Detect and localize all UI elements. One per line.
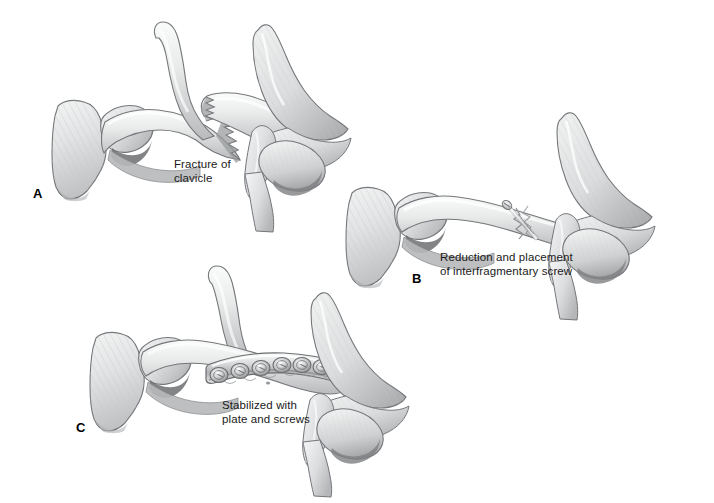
panel-letter-b: B	[412, 271, 421, 286]
clavicle-fracture-figure	[0, 0, 714, 503]
plate-shadow-speck	[266, 381, 270, 384]
plate-screw-5	[293, 358, 311, 373]
panel-a-caption: Fracture of clavicle	[174, 157, 231, 185]
panel-c-caption: Stabilized with plate and screws	[222, 398, 310, 426]
panel-b-caption: Reduction and placement of interfragment…	[440, 250, 573, 278]
plate-screw-2	[231, 364, 249, 379]
plate-screw-4	[273, 358, 291, 373]
plate-screw-3	[252, 361, 270, 376]
plate-screw-1	[210, 368, 228, 383]
panel-letter-a: A	[33, 186, 42, 201]
panel-letter-c: C	[76, 420, 85, 435]
